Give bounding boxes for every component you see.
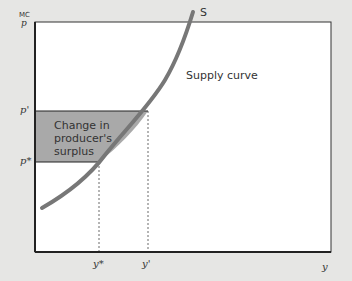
x-axis-label: y	[322, 262, 328, 272]
y-star-label: y*	[93, 259, 104, 269]
curve-name-s: S	[200, 7, 207, 18]
p-prime-label: p'	[20, 105, 29, 115]
y-axis-label-p: p	[21, 19, 27, 28]
diagram	[0, 0, 352, 281]
label-line-2: producer's	[54, 132, 112, 145]
producer-surplus-label: Change in producer's surplus	[54, 119, 112, 158]
supply-curve-label: Supply curve	[186, 70, 258, 81]
y-prime-label: y'	[142, 259, 150, 269]
label-line-1: Change in	[54, 119, 112, 132]
label-line-3: surplus	[54, 145, 112, 158]
p-star-label: p*	[20, 156, 31, 166]
